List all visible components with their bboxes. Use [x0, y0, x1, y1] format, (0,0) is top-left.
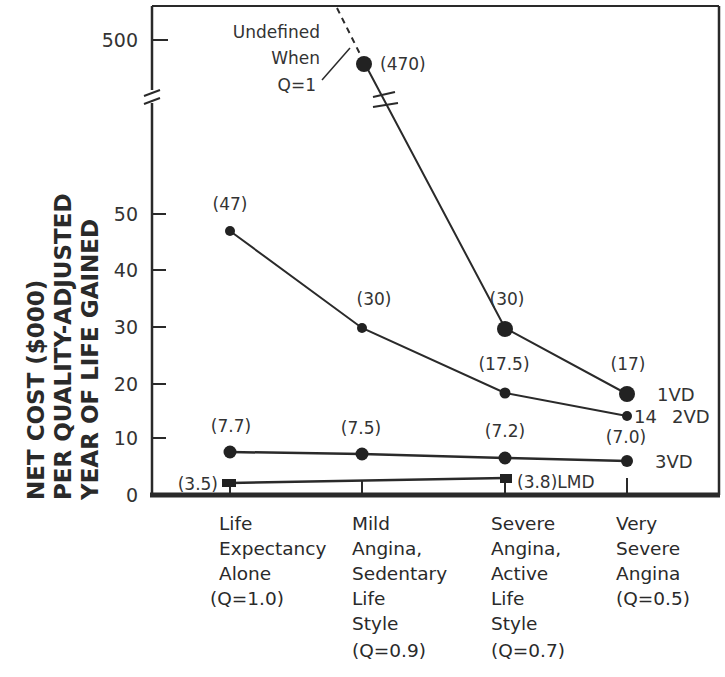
data-point-lmd-life	[222, 479, 236, 487]
annotation-pointer	[322, 48, 350, 80]
data-point-1vd-mild	[356, 56, 372, 72]
x-category-life-expectancy: Life Expectancy Alone (Q=1.0)	[210, 513, 326, 609]
label-3vd-life: (7.7)	[211, 416, 251, 436]
category-line: Angina,	[491, 538, 561, 559]
series-name-3vd: 3VD	[655, 451, 693, 472]
undefined-dashed-line	[337, 8, 362, 58]
category-line: Severe	[491, 513, 555, 534]
category-line: Sedentary	[352, 563, 447, 584]
y-axis-label-line-1: NET COST ($000)	[23, 280, 49, 500]
y-axis-label-line-2: PER QUALITY-ADJUSTED	[50, 193, 76, 500]
chart: 500 50 40 30 20 10 0 NET COST ($000) PER…	[0, 0, 725, 677]
label-lmd-life: (3.5)	[178, 474, 218, 494]
category-line: Angina	[616, 563, 680, 584]
annotation-line-2: When	[271, 48, 320, 68]
label-lmd-severe: (3.8)LMD	[517, 472, 595, 492]
data-point-lmd-severe	[500, 474, 512, 483]
category-line: (Q=1.0)	[210, 588, 284, 609]
category-line: (Q=0.9)	[352, 640, 426, 661]
data-point-1vd-very-severe	[619, 386, 635, 402]
category-line: Style	[352, 613, 398, 634]
data-point-2vd-mild	[357, 323, 367, 333]
category-line: Life	[352, 588, 385, 609]
data-point-3vd-life	[224, 446, 237, 459]
category-line: (Q=0.7)	[491, 640, 565, 661]
category-line: Very	[616, 513, 657, 534]
y-tick-20: 20	[114, 373, 138, 395]
label-2vd-mild: (30)	[357, 289, 392, 309]
y-axis-label: NET COST ($000) PER QUALITY-ADJUSTED YEA…	[23, 193, 103, 501]
label-3vd-severe: (7.2)	[485, 421, 525, 441]
series-name-1vd: 1VD	[657, 384, 695, 405]
label-3vd-very-severe: (7.0)	[606, 427, 646, 447]
category-line: Alone	[219, 563, 271, 584]
category-line: Expectancy	[219, 538, 326, 559]
series-1vd: (470) (30) (17) 1VD	[337, 8, 695, 405]
y-axis-break-icon	[144, 90, 160, 104]
label-1vd-mild: (470)	[380, 54, 426, 74]
y-tick-labels: 500 50 40 30 20 10 0	[102, 29, 138, 506]
data-point-2vd-severe	[500, 388, 511, 399]
label-2vd-very-severe: 14	[634, 406, 657, 427]
category-line: Life	[219, 513, 252, 534]
category-line: Severe	[616, 538, 680, 559]
y-tick-0: 0	[126, 484, 138, 506]
y-tick-50: 50	[114, 203, 138, 225]
data-point-3vd-mild	[356, 448, 369, 461]
annotation-line-1: Undefined	[233, 22, 320, 42]
category-line: Life	[491, 588, 524, 609]
label-1vd-severe: (30)	[490, 289, 525, 309]
data-point-2vd-very-severe	[622, 411, 632, 421]
data-point-3vd-severe	[499, 452, 512, 465]
label-2vd-life: (47)	[213, 194, 248, 214]
category-line: (Q=0.5)	[616, 588, 690, 609]
annotation-undefined: Undefined When Q=1	[233, 22, 350, 95]
category-line: Mild	[352, 513, 390, 534]
label-3vd-mild: (7.5)	[341, 418, 381, 438]
category-line: Style	[491, 613, 537, 634]
y-tick-10: 10	[114, 427, 138, 449]
y-tick-30: 30	[114, 316, 138, 338]
series-name-2vd: 2VD	[672, 406, 710, 427]
annotation-line-3: Q=1	[278, 75, 316, 95]
x-category-very-severe-angina: Very Severe Angina (Q=0.5)	[616, 513, 690, 609]
data-point-3vd-very-severe	[621, 455, 633, 467]
y-tick-500: 500	[102, 29, 138, 51]
series-3vd: (7.7) (7.5) (7.2) (7.0) 3VD	[211, 416, 693, 472]
label-1vd-very-severe: (17)	[611, 354, 646, 374]
category-line: Angina,	[352, 538, 422, 559]
y-tick-40: 40	[114, 259, 138, 281]
series-break-icon	[373, 92, 398, 107]
series-lmd: (3.5) (3.8)LMD	[178, 472, 595, 494]
x-category-mild-angina: Mild Angina, Sedentary Life Style (Q=0.9…	[352, 513, 447, 661]
category-line: Active	[491, 563, 548, 584]
series-2vd: (47) (30) (17.5) 14 2VD	[213, 194, 710, 427]
data-point-1vd-severe	[497, 321, 513, 337]
y-axis-label-line-3: YEAR OF LIFE GAINED	[77, 219, 103, 501]
label-2vd-severe: (17.5)	[478, 354, 529, 374]
x-category-severe-angina: Severe Angina, Active Life Style (Q=0.7)	[491, 513, 565, 661]
data-point-2vd-life	[225, 226, 235, 236]
